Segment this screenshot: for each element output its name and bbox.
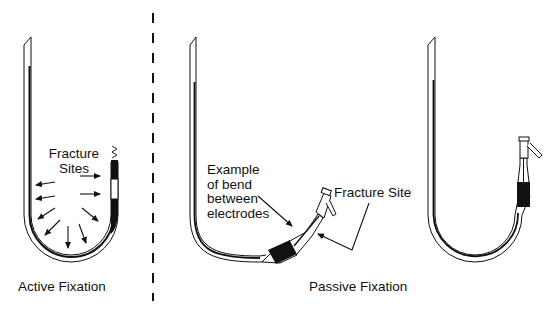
bend-line4: electrodes: [207, 207, 269, 222]
helix-screw-icon: [112, 146, 117, 158]
passive-fixation-caption: Passive Fixation: [309, 279, 407, 294]
fracture-arrows: [36, 176, 100, 248]
bend-line1: Example: [207, 163, 269, 178]
fracture-sites-line2: Sites: [46, 161, 102, 176]
bend-annotation: Example of bend between electrodes: [207, 163, 269, 221]
fracture-site-label: Fracture Site: [334, 185, 411, 200]
active-fixation-caption: Active Fixation: [18, 279, 106, 294]
bend-line3: between: [207, 192, 269, 207]
passive-bent-lead: [190, 37, 336, 264]
fracture-sites-label: Fracture Sites: [46, 146, 102, 176]
fracture-sites-line1: Fracture: [46, 146, 102, 161]
bend-line2: of bend: [207, 178, 269, 193]
passive-straight-lead: [428, 37, 542, 262]
